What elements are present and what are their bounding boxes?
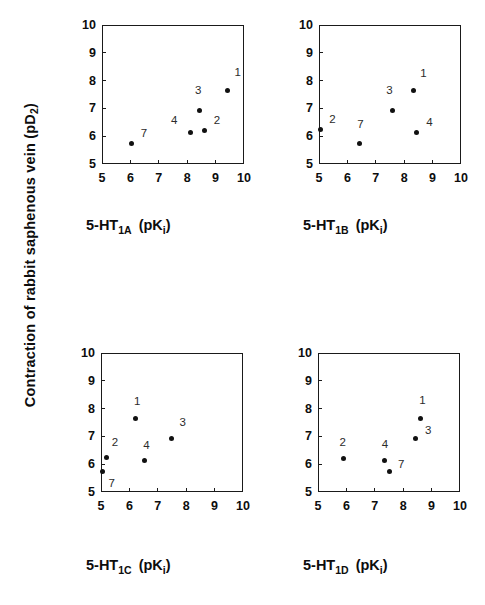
data-point-label: 3	[425, 425, 431, 436]
x-axis-title-subscript: 1A	[118, 224, 131, 236]
y-axis-tick-label: 7	[291, 102, 313, 114]
y-axis-tick	[319, 52, 323, 53]
data-point-label: 3	[386, 85, 392, 96]
y-axis-tick-label: 7	[290, 430, 312, 442]
x-axis-title-paren-close: )	[166, 557, 171, 573]
x-axis-tick-label: 5	[307, 500, 329, 512]
data-point-label: 4	[143, 440, 149, 451]
data-point-label: 4	[382, 439, 388, 450]
y-axis-tick-label: 10	[74, 19, 96, 31]
y-axis-title-subscript: 2	[28, 108, 40, 114]
x-axis-tick-label: 5	[308, 172, 330, 184]
x-axis-tick	[403, 488, 404, 492]
y-axis-tick-label: 10	[291, 19, 313, 31]
data-point	[411, 88, 416, 93]
x-axis-tick	[404, 160, 405, 164]
x-axis-tick-label: 9	[205, 172, 227, 184]
x-axis-title-paren-close: )	[383, 217, 388, 233]
y-axis-tick-label: 9	[73, 375, 95, 387]
y-axis-tick	[102, 136, 106, 137]
x-axis-title-prefix: 5-HT	[303, 557, 335, 573]
data-point-label: 2	[112, 437, 118, 448]
x-axis-tick-label: 10	[232, 500, 254, 512]
x-axis-tick	[187, 160, 188, 164]
data-point-label: 1	[419, 395, 425, 406]
data-point	[225, 88, 230, 93]
x-axis-tick-label: 10	[449, 500, 471, 512]
data-point	[414, 130, 419, 135]
y-axis-tick-label: 6	[291, 130, 313, 142]
y-axis-tick-label: 6	[290, 458, 312, 470]
data-point	[387, 469, 392, 474]
x-axis-tick-label: 9	[204, 500, 226, 512]
data-point	[142, 458, 147, 463]
y-axis-tick-label: 10	[73, 347, 95, 359]
data-point-label: 2	[329, 114, 335, 125]
y-axis-tick-label: 7	[74, 102, 96, 114]
x-axis-title-prefix: 5-HT	[303, 217, 335, 233]
x-axis-title-paren-open: (pK	[139, 557, 163, 573]
data-point	[390, 108, 395, 113]
x-axis-title-subscript: 1B	[335, 224, 348, 236]
x-axis-title-paren-open: (pK	[139, 217, 163, 233]
y-axis-tick	[318, 436, 322, 437]
y-axis-tick-label: 5	[290, 486, 312, 498]
y-axis-tick-label: 6	[73, 458, 95, 470]
x-axis-tick-label: 5	[91, 172, 113, 184]
x-axis-tick-label: 8	[393, 172, 415, 184]
y-axis-tick	[318, 408, 322, 409]
y-axis-title-tail: )	[22, 103, 38, 108]
y-axis-tick-label: 6	[74, 130, 96, 142]
y-axis-tick	[319, 80, 323, 81]
y-axis-tick-label: 8	[74, 75, 96, 87]
x-axis-title-paren-open: (pK	[356, 217, 380, 233]
y-axis-tick	[318, 380, 322, 381]
x-axis-tick	[215, 160, 216, 164]
x-axis-tick	[432, 160, 433, 164]
y-axis-tick-label: 9	[290, 375, 312, 387]
x-axis-tick-label: 9	[422, 172, 444, 184]
y-axis-tick	[102, 52, 106, 53]
x-axis-tick-label: 8	[392, 500, 414, 512]
y-axis-tick	[319, 136, 323, 137]
x-axis-tick	[158, 160, 159, 164]
y-axis-tick-label: 9	[74, 47, 96, 59]
data-point-label: 3	[179, 417, 185, 428]
figure-panel-grid: Contraction of rabbit saphenous vein (pD…	[0, 0, 485, 605]
x-axis-tick-label: 9	[421, 500, 443, 512]
data-point-label: 1	[420, 68, 426, 79]
y-axis-tick-label: 5	[74, 158, 96, 170]
x-axis-tick-label: 6	[336, 172, 358, 184]
x-axis-title: 5-HT1A(pKi)	[86, 216, 171, 239]
y-axis-tick-label: 7	[73, 430, 95, 442]
data-point-label: 1	[134, 396, 140, 407]
data-point-label: 4	[171, 115, 177, 126]
data-point-label: 7	[357, 119, 363, 130]
y-axis-tick-label: 5	[73, 486, 95, 498]
x-axis-tick	[186, 488, 187, 492]
x-axis-tick	[157, 488, 158, 492]
x-axis-title-subscript: 1D	[335, 564, 348, 576]
data-point-label: 7	[141, 128, 147, 139]
y-axis-tick	[318, 464, 322, 465]
data-point	[418, 416, 423, 421]
y-axis-tick-label: 8	[291, 75, 313, 87]
y-axis-tick	[102, 80, 106, 81]
data-point	[341, 456, 346, 461]
x-axis-title: 5-HT1B(pKi)	[303, 216, 388, 239]
y-axis-tick	[102, 108, 106, 109]
data-point-label: 3	[195, 85, 201, 96]
data-point-label: 7	[398, 459, 404, 470]
x-axis-title-paren-close: )	[166, 217, 171, 233]
y-axis-tick-label: 9	[291, 47, 313, 59]
x-axis-tick	[129, 488, 130, 492]
y-axis-tick	[101, 380, 105, 381]
x-axis-title-subscript: 1C	[118, 564, 131, 576]
y-axis-tick	[319, 108, 323, 109]
y-axis-title-text: Contraction of rabbit saphenous vein (pD	[22, 114, 38, 407]
x-axis-tick-label: 10	[450, 172, 472, 184]
x-axis-tick	[130, 160, 131, 164]
x-axis-title: 5-HT1C(pKi)	[86, 556, 171, 579]
y-axis-tick-label: 10	[290, 347, 312, 359]
y-axis-tick-label: 5	[291, 158, 313, 170]
